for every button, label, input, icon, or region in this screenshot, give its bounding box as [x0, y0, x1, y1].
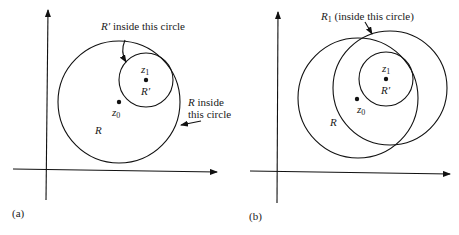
panel-a-z1-label: z1 — [141, 64, 149, 78]
panel-b-point-z1 — [384, 77, 388, 81]
r-callout-var: R — [188, 96, 195, 108]
panel-b-r-label: R — [330, 117, 337, 128]
panel-a-r-prime-label: R′ — [141, 86, 150, 97]
panel-a-r-prime-callout: R′ inside this circle — [101, 21, 185, 32]
r-callout-text1: inside — [195, 96, 224, 108]
panel-b-r1-callout: R1 (inside this circle) — [321, 11, 414, 25]
panel-a-r-label: R — [95, 125, 102, 136]
panel-a-point-z0 — [117, 100, 121, 104]
panel-b-z1-label: z1 — [382, 63, 390, 77]
panel-b-z0-label: z0 — [357, 104, 365, 118]
panel-a-diagram — [13, 10, 217, 200]
panel-a-r-prime-callout-var: R′ — [101, 20, 110, 32]
panel-a-z0-label: z0 — [112, 107, 120, 121]
panel-a-point-z1 — [144, 78, 148, 82]
panel-b-caption: (b) — [249, 211, 262, 222]
z0-sub: 0 — [116, 111, 120, 120]
panel-a-r-prime-callout-text: inside this circle — [110, 20, 185, 32]
z0-sub: 0 — [361, 108, 365, 117]
panel-a-x-axis — [13, 169, 217, 172]
panel-a-r-callout-line2: this circle — [188, 109, 231, 120]
r1-callout-var: R — [321, 10, 328, 22]
panel-a-r-callout-line1: R inside — [188, 97, 224, 108]
panel-a-y-axis — [46, 10, 48, 200]
panel-b-y-axis — [277, 12, 278, 203]
z1-sub: 1 — [386, 67, 390, 76]
panel-a-r-callout-arrow — [181, 121, 201, 125]
z1-sub: 1 — [145, 68, 149, 77]
panel-b-x-axis — [250, 171, 450, 174]
panel-a-r-prime-callout-arrow — [123, 40, 126, 62]
panel-b-r-prime-label: R′ — [381, 85, 390, 96]
panel-a-caption: (a) — [12, 208, 24, 219]
panel-b-point-z0 — [355, 97, 359, 101]
r1-callout-text: (inside this circle) — [332, 10, 414, 22]
panel-b-diagram — [250, 12, 450, 203]
